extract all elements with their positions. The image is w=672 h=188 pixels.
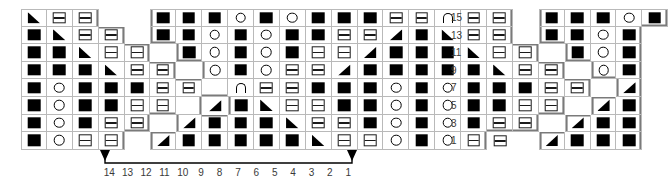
stitch-cell-b — [642, 132, 668, 150]
filled-square-icon — [332, 97, 357, 114]
stitch-cell-k — [228, 97, 254, 115]
filled-square-icon — [383, 62, 408, 79]
stitch-cell-p — [358, 27, 384, 45]
stitch-cell-p — [383, 9, 409, 27]
purl-rectangle-icon — [332, 44, 357, 61]
filled-square-icon — [280, 132, 305, 149]
stitch-cell-k — [254, 132, 280, 150]
filled-square-icon — [540, 10, 564, 26]
filled-square-icon — [332, 10, 357, 26]
open-circle-icon — [203, 62, 227, 79]
purl-rectangle-icon — [125, 115, 150, 132]
purl-rectangle-icon — [306, 115, 331, 132]
stitch-cell-k — [254, 9, 280, 27]
triangle-pointing-northeast-icon — [47, 27, 72, 44]
column-number: 12 — [137, 167, 155, 178]
open-circle-icon — [383, 115, 408, 132]
filled-square-icon — [616, 27, 641, 44]
open-circle-icon — [591, 44, 616, 61]
stitch-cell-k — [228, 62, 254, 80]
stitch-cell-b — [513, 9, 539, 27]
stitch-cell-k — [73, 62, 99, 80]
row-number: 11 — [451, 44, 471, 62]
open-circle-icon — [202, 44, 227, 61]
chart-row — [21, 115, 672, 133]
blank-icon — [642, 79, 668, 97]
stitch-cell-b — [565, 62, 591, 80]
filled-square-icon — [565, 132, 590, 149]
stitch-cell-b — [668, 132, 672, 150]
chart-row — [21, 79, 672, 97]
open-circle-icon — [47, 97, 72, 114]
filled-square-icon — [22, 79, 46, 96]
arc-cable-icon — [228, 79, 253, 96]
stitch-cell-p — [539, 79, 565, 97]
blank-icon — [668, 44, 672, 62]
stitch-cell-p — [332, 27, 358, 45]
stitch-cell-p — [306, 97, 332, 115]
column-number: 7 — [229, 167, 247, 178]
stitch-cell-p — [539, 97, 565, 115]
stitch-cell-b — [150, 44, 176, 62]
stitch-cell-p — [73, 27, 99, 45]
stitch-cell-k — [21, 62, 47, 80]
filled-square-icon — [591, 115, 616, 132]
triangle-pointing-northwest-icon — [202, 97, 228, 115]
stitch-cell-k — [539, 27, 565, 45]
purl-rectangle-icon — [539, 79, 564, 96]
stitch-cell-o — [202, 27, 228, 45]
stitch-cell-k — [21, 44, 47, 62]
stitch-cell-tne — [254, 97, 280, 115]
purl-rectangle-icon — [306, 44, 331, 61]
stitch-cell-k — [539, 9, 565, 27]
stitch-cell-k — [409, 115, 435, 133]
triangle-pointing-northeast-icon — [254, 97, 279, 114]
stitch-cell-k — [591, 9, 617, 27]
stitch-cell-o — [254, 62, 280, 80]
stitch-cell-tne — [280, 115, 306, 133]
purl-rectangle-icon — [125, 62, 150, 79]
stitch-cell-b — [150, 115, 176, 133]
stitch-cell-k — [616, 115, 642, 133]
stitch-cell-p — [358, 132, 384, 150]
open-circle-icon — [202, 27, 227, 44]
triangle-pointing-northwest-icon — [592, 97, 616, 114]
blank-icon — [668, 9, 672, 27]
purl-rectangle-icon — [99, 44, 124, 61]
filled-square-icon — [99, 79, 124, 96]
filled-square-icon — [358, 97, 383, 114]
purl-rectangle-icon — [358, 132, 383, 149]
stitch-cell-b — [668, 79, 672, 97]
stitch-cell-k — [280, 44, 306, 62]
stitch-cell-p — [565, 79, 591, 97]
filled-square-icon — [565, 27, 590, 44]
purl-rectangle-icon — [332, 132, 357, 149]
column-number: 11 — [155, 167, 173, 178]
stitch-cell-p — [73, 9, 99, 27]
stitch-cell-k — [47, 62, 73, 80]
stitch-cell-p — [306, 62, 332, 80]
stitch-cell-k — [409, 132, 435, 150]
filled-square-icon — [409, 44, 434, 61]
stitch-cell-tne — [21, 9, 47, 27]
purl-rectangle-icon — [513, 115, 538, 132]
chart-grid — [21, 9, 672, 150]
blank-icon — [176, 62, 202, 80]
stitch-cell-k — [565, 9, 591, 27]
stitch-cell-p — [150, 62, 176, 80]
stitch-cell-o — [254, 27, 280, 45]
filled-square-icon — [409, 62, 434, 79]
triangle-pointing-northeast-icon — [99, 62, 124, 79]
stitch-cell-k — [73, 97, 99, 115]
chart-row — [21, 44, 672, 62]
stitch-cell-k — [306, 79, 332, 97]
stitch-cell-k — [228, 44, 254, 62]
purl-rectangle-icon — [539, 62, 564, 79]
stitch-cell-o — [383, 79, 409, 97]
triangle-pointing-northwest-icon — [177, 115, 201, 132]
stitch-cell-b — [642, 27, 668, 45]
row-number: 3 — [451, 115, 471, 133]
stitch-cell-k — [176, 27, 202, 45]
stitch-cell-k — [565, 132, 591, 150]
open-circle-icon — [383, 97, 408, 114]
